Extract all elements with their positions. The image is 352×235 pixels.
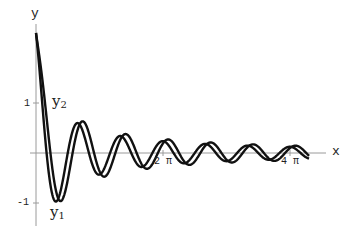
curve-y1: [36, 33, 309, 202]
curve-y2: [36, 33, 309, 201]
plot-area: [0, 0, 352, 235]
curve-label-y2-sub: 2: [60, 99, 66, 110]
x-tick-label-4pi: 4 π: [281, 157, 299, 167]
curve-label-y1: y1: [50, 205, 65, 221]
y-tick-label-1: 1: [24, 99, 30, 109]
x-tick-label-2pi: 2 π: [154, 157, 172, 167]
y-tick-label-neg1: -1: [17, 198, 29, 208]
x-axis-label: x: [332, 145, 340, 158]
y-axis-label: y: [31, 7, 39, 20]
curve-label-y2: y2: [52, 94, 67, 110]
curve-label-y1-sub: 1: [58, 210, 64, 221]
